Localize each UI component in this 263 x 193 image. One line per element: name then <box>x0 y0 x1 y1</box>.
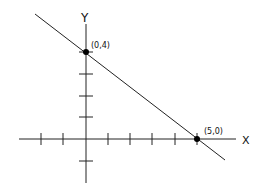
y-axis-label: Y <box>80 11 89 25</box>
point-b-label: (5,0) <box>204 127 223 136</box>
line-graph: Y X (0,4) (5,0) <box>0 0 263 193</box>
point-a-label: (0,4) <box>91 41 110 50</box>
x-axis-label: X <box>242 134 250 147</box>
point-0-4 <box>83 49 89 55</box>
point-5-0 <box>194 136 200 142</box>
